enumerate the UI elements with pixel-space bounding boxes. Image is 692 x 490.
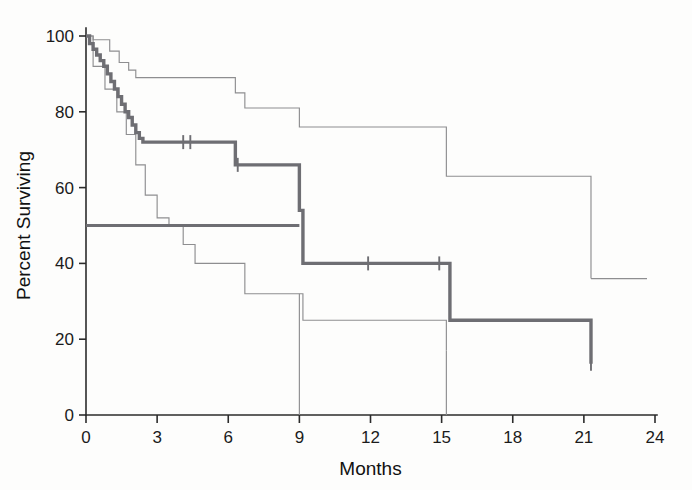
y-tick-label: 0 (65, 406, 74, 425)
y-axis-title: Percent Surviving (13, 151, 34, 300)
y-tick-label: 60 (55, 179, 74, 198)
figure-canvas: 02040608010003691215182124MonthsPercent … (0, 0, 692, 490)
y-tick-label: 40 (55, 254, 74, 273)
x-axis-title: Months (339, 458, 401, 479)
y-tick-label: 100 (46, 27, 74, 46)
survival-curve (86, 36, 591, 364)
y-tick-label: 80 (55, 103, 74, 122)
x-tick-label: 6 (224, 428, 233, 447)
x-tick-label: 24 (646, 428, 665, 447)
x-tick-label: 15 (432, 428, 451, 447)
lower-ci-curve (86, 36, 446, 351)
x-tick-label: 12 (361, 428, 380, 447)
x-tick-label: 9 (295, 428, 304, 447)
x-tick-label: 3 (152, 428, 161, 447)
x-tick-label: 21 (574, 428, 593, 447)
y-tick-label: 20 (55, 330, 74, 349)
upper-ci-curve (86, 36, 591, 279)
x-tick-label: 18 (503, 428, 522, 447)
survival-plot: 02040608010003691215182124MonthsPercent … (0, 0, 692, 490)
x-tick-label: 0 (81, 428, 90, 447)
